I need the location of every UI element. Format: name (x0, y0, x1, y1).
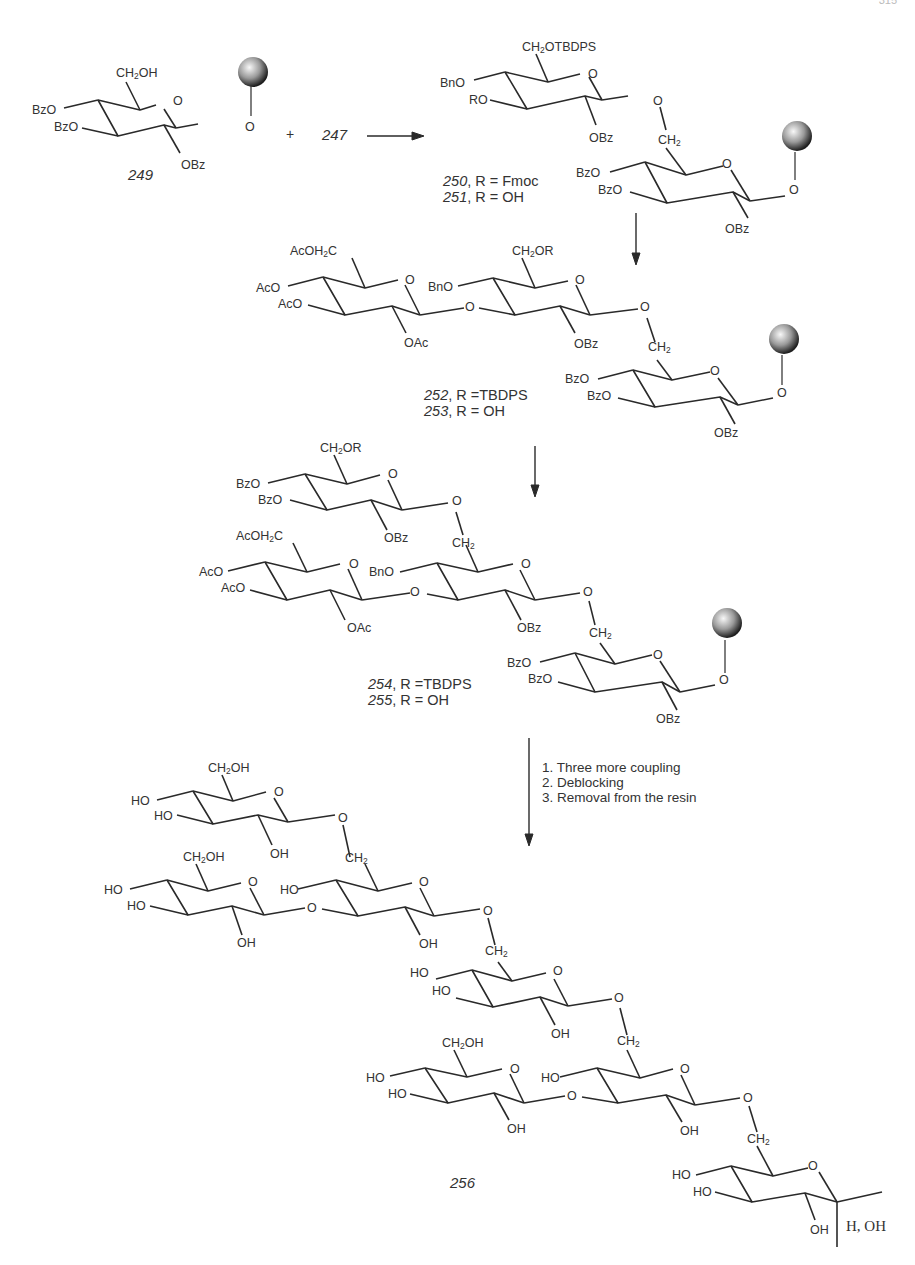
bzo-group: BzO (598, 183, 622, 197)
ho-group: HO (410, 966, 429, 980)
ring-oxygen: O (510, 1062, 520, 1076)
linkage-oxygen: O (640, 300, 650, 314)
page-number: 315 (879, 0, 897, 6)
ch2-group: CH2 (747, 1132, 770, 1149)
ring-oxygen: O (710, 364, 720, 378)
oh-group: OH (551, 1027, 570, 1041)
aco-group: AcO (256, 281, 280, 295)
ch2oh-group: CH2OH (116, 66, 158, 83)
ch2oh-group: CH2OH (442, 1036, 484, 1053)
r-definition-251: 251, R = OH (443, 189, 524, 205)
ring-oxygen: O (405, 273, 415, 287)
linkage-oxygen: O (338, 811, 348, 825)
ho-group: HO (432, 984, 451, 998)
ch2otbdps-group: CH2OTBDPS (522, 40, 596, 57)
oh-group: OH (507, 1122, 526, 1136)
oac-group: OAc (347, 621, 371, 635)
linkage-oxygen: O (653, 94, 663, 108)
reaction-arrow-down (632, 213, 640, 265)
ring-oxygen: O (173, 94, 183, 108)
reaction-arrow-down (525, 738, 533, 846)
oh-group: OH (237, 936, 256, 950)
final-step-conditions: 1. Three more coupling 2. Deblocking 3. … (542, 760, 697, 805)
ch2oh-group: CH2OH (208, 761, 250, 778)
aco-group: AcO (278, 297, 302, 311)
ro-group: RO (469, 93, 488, 107)
bzo-group: BzO (258, 493, 282, 507)
condition-step-2: 2. Deblocking (542, 775, 697, 790)
oh-group: OH (680, 1124, 699, 1138)
anomeric-oxygen: O (719, 673, 729, 687)
aco-group: AcO (199, 565, 223, 579)
ho-group: HO (131, 794, 150, 808)
compound-254-structure (228, 455, 725, 710)
bzo-group: BzO (565, 372, 589, 386)
r-definition-250: 250, R = Fmoc (443, 173, 539, 189)
obz-group: OBz (656, 712, 680, 726)
anomeric-oxygen: O (789, 183, 799, 197)
ring-oxygen: O (653, 648, 663, 662)
ring-oxygen: O (722, 157, 732, 171)
bzo-group: BzO (236, 477, 260, 491)
ring-oxygen: O (248, 875, 258, 889)
plus-sign: + (286, 126, 294, 142)
ch2-group: CH2 (485, 944, 508, 961)
ch2-group: CH2 (452, 536, 475, 553)
ho-group: HO (541, 1071, 560, 1085)
obz-group: OBz (589, 131, 613, 145)
reaction-arrow-down (531, 446, 539, 497)
obz-group: OBz (517, 621, 541, 635)
ring-oxygen: O (808, 1159, 818, 1173)
r-definition-255: 255, R = OH (368, 692, 449, 708)
aco-group: AcO (221, 581, 245, 595)
ring-oxygen: O (575, 273, 585, 287)
obz-group: OBz (714, 426, 738, 440)
resin-bead-icon (238, 57, 268, 87)
ho-group: HO (388, 1087, 407, 1101)
ring-oxygen: O (274, 785, 284, 799)
ch2-group: CH2 (648, 340, 671, 357)
ho-group: HO (693, 1185, 712, 1199)
linkage-oxygen: O (452, 494, 462, 508)
ho-group: HO (127, 899, 146, 913)
ch2-group: CH2 (345, 851, 368, 868)
acoh2c-group: AcOH2C (236, 529, 283, 546)
ring-oxygen: O (388, 467, 398, 481)
bzo-group: BzO (507, 656, 531, 670)
glycosidic-oxygen: O (410, 585, 420, 599)
ho-group: HO (104, 883, 123, 897)
ch2-group: CH2 (617, 1034, 640, 1051)
ring-oxygen: O (588, 67, 598, 81)
condition-step-1: 1. Three more coupling (542, 760, 697, 775)
ho-group: HO (154, 809, 173, 823)
r-definition-253: 253, R = OH (424, 403, 505, 419)
bzo-group: BzO (54, 120, 78, 134)
r-definition-252: 252, R =TBDPS (424, 387, 528, 403)
bzo-group: BzO (32, 103, 56, 117)
ring-oxygen: O (553, 964, 563, 978)
linkage-oxygen: O (483, 904, 493, 918)
linkage-oxygen: O (583, 585, 593, 599)
glycosidic-oxygen: O (567, 1089, 577, 1103)
ring-oxygen: O (349, 557, 359, 571)
ch2-group: CH2 (658, 133, 681, 150)
ring-oxygen: O (521, 557, 531, 571)
linkage-oxygen: O (743, 1091, 753, 1105)
glycosidic-oxygen: O (307, 901, 317, 915)
bno-group: BnO (440, 76, 465, 90)
oh-group: OH (419, 937, 438, 951)
ho-group: HO (366, 1071, 385, 1085)
obz-group: OBz (384, 531, 408, 545)
ch2oh-group: CH2OH (183, 850, 225, 867)
anomeric-oxygen: O (777, 386, 787, 400)
oac-group: OAc (404, 336, 428, 350)
bzo-group: BzO (528, 672, 552, 686)
ch2or-group: CH2OR (320, 441, 362, 458)
bno-group: BnO (369, 565, 394, 579)
resin-bead-icon (712, 608, 742, 638)
compound-256-structure (130, 775, 882, 1247)
bno-group: BnO (428, 280, 453, 294)
ho-group: HO (280, 883, 299, 897)
obz-group: OBz (181, 158, 205, 172)
condition-step-3: 3. Removal from the resin (542, 790, 697, 805)
